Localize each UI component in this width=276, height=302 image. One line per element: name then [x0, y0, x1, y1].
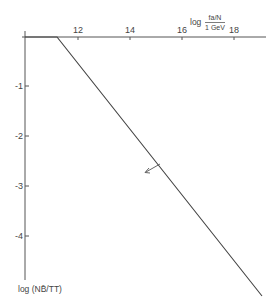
svg-text:18: 18: [229, 25, 239, 35]
svg-text:12: 12: [73, 25, 83, 35]
svg-text:14: 14: [125, 25, 135, 35]
arrow-icon: [145, 164, 160, 173]
x-axis-label: log fa/N 1 GeV: [190, 14, 225, 31]
svg-text:16: 16: [177, 25, 187, 35]
svg-text:-3: -3: [15, 181, 23, 191]
svg-text:1 GeV: 1 GeV: [205, 24, 225, 31]
svg-text:-1: -1: [15, 81, 23, 91]
y-tick-labels: -1 -2 -3 -4: [15, 81, 23, 241]
svg-text:fa/N: fa/N: [209, 14, 222, 21]
bound-line: [25, 37, 262, 296]
chart: 12 14 16 18 log fa/N 1 GeV -1 -2 -3 -4 l…: [0, 0, 276, 302]
svg-text:-2: -2: [15, 131, 23, 141]
svg-text:log: log: [190, 17, 202, 27]
y-axis-label: log (NB̄/TT): [18, 284, 62, 294]
y-ticks: [25, 86, 29, 236]
svg-text:-4: -4: [15, 231, 23, 241]
